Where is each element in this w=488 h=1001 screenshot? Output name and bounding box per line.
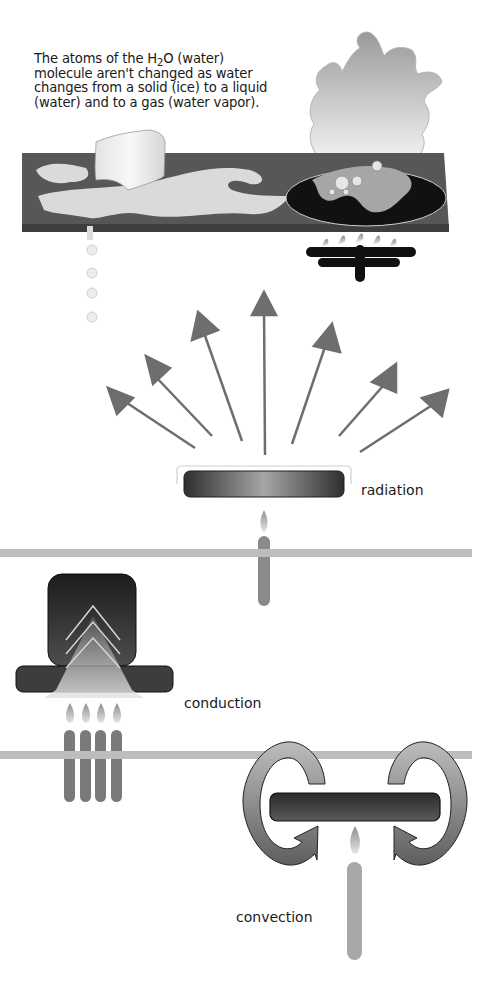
caption-line-2: molecule aren't changed as water [34,66,252,81]
burner-flames [322,234,396,246]
arrow-head-icon [252,292,276,315]
arrow-head-icon [372,364,396,392]
caption-line-1: The atoms of the H2O (water) [34,51,224,66]
steam-cloud [310,32,442,162]
shelf-line [0,549,472,557]
conduction-candles [64,730,122,802]
convection-bar [270,793,440,821]
conduction-illustration [16,574,173,802]
radiation-label: radiation [361,482,424,498]
water-drop [87,288,97,298]
water-drop [87,312,97,322]
caption-line-3: changes from a solid (ice) to a liquid [34,80,267,95]
arrow-head-icon [314,324,340,352]
water-drips [87,245,97,322]
water-states-caption: The atoms of the H2O (water) molecule ar… [34,52,294,110]
arrow-head-icon [422,390,448,416]
radiation-arrows [108,292,448,455]
arrow-head-icon [146,356,170,384]
water-drip-stream [87,226,93,240]
heat-transfer-diagram [0,0,488,1001]
radiation-bar [184,471,344,497]
radiation-illustration [108,292,448,606]
radiation-flame-icon [260,510,267,532]
caption-line-4: (water) and to a gas (water vapor). [34,95,259,110]
radiation-candle [258,536,270,606]
convection-label: convection [236,909,313,925]
arrow-head-icon [108,388,133,414]
convection-flame-icon [350,826,360,854]
water-drop [87,245,97,255]
convection-candle [347,862,362,960]
conduction-label: conduction [184,695,261,711]
convection-illustration [243,742,467,960]
conduction-flames [66,703,121,723]
arrow-head-icon [192,312,218,340]
gas-burner [306,234,416,282]
water-drop [87,268,97,278]
